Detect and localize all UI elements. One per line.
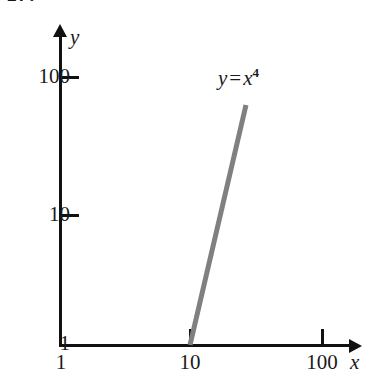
plot-area (0, 0, 372, 381)
curve-y-equals-x-to-the-4 (190, 105, 246, 345)
log-log-plot-figure: 17. 100 10 1 1 10 100 y x y=x4 (0, 0, 372, 381)
curve-annotation-operator: = (227, 66, 243, 90)
curve-annotation-label: y=x4 (218, 68, 259, 89)
curve-annotation-lhs: y (218, 66, 227, 90)
curve-annotation-exponent: 4 (253, 65, 260, 80)
curve-annotation-base: x (243, 66, 252, 90)
